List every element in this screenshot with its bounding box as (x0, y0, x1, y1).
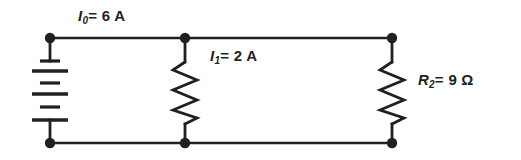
resistor-r1-zigzag (173, 62, 197, 124)
label-resistance-symbol: R (418, 71, 429, 88)
label-source-current: I0= 6 A (78, 8, 125, 23)
resistor-r2-zigzag (380, 62, 404, 124)
label-branch-current-value: 2 A (234, 47, 257, 64)
resistor-r1-branch (173, 38, 197, 143)
label-branch-current: I1= 2 A (210, 48, 257, 63)
node-top-middle (180, 33, 190, 43)
node-top-right (387, 33, 397, 43)
label-resistance-subscript: 2 (429, 79, 435, 90)
battery-branch (32, 38, 68, 143)
battery-symbol (32, 61, 68, 120)
node-bottom-left (45, 138, 55, 148)
label-resistance-value: 9 Ω (448, 71, 473, 88)
label-source-current-subscript: 0 (82, 15, 88, 26)
label-source-current-value: 6 A (102, 7, 125, 24)
label-source-current-equals: = (88, 7, 97, 24)
circuit-diagram: I0= 6 A I1= 2 A R2= 9 Ω (0, 0, 521, 160)
label-branch-current-subscript: 1 (214, 55, 220, 66)
label-resistance: R2= 9 Ω (418, 72, 474, 87)
node-top-left (45, 33, 55, 43)
label-branch-current-equals: = (220, 47, 229, 64)
node-bottom-middle (180, 138, 190, 148)
node-bottom-right (387, 138, 397, 148)
label-resistance-equals: = (435, 71, 444, 88)
resistor-r2-branch (380, 38, 404, 143)
